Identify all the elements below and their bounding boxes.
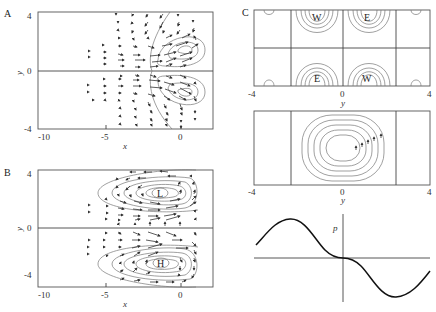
panel-b-xtick-0: 0 [178, 290, 183, 300]
panel-c-top-label-e2: E [314, 73, 320, 84]
panel-c-top-xtick-neg4: -4 [248, 89, 256, 99]
panel-a-ytick-0: 0 [27, 66, 32, 76]
panel-b-label: B [4, 167, 11, 178]
panel-b-ytick-4: 4 [27, 169, 32, 179]
panel-c: C [242, 7, 432, 302]
panel-a-xlabel: x [122, 141, 127, 151]
panel-c-middle-xtick-4: 4 [427, 187, 432, 197]
panel-a-frame [38, 12, 213, 129]
panel-c-middle-contours [302, 115, 384, 181]
panel-c-top-label-w2: W [362, 73, 372, 84]
panel-a-xtick-neg10: -10 [38, 132, 50, 142]
panel-a-contours [150, 12, 205, 129]
panel-c-middle-xtick-neg4: -4 [248, 187, 256, 197]
panel-c-top: W E E W -4 0 4 y [248, 10, 432, 108]
figure-canvas: A 4 0 -4 y -10 -5 0 x [0, 0, 436, 312]
panel-b-high-label: H [157, 258, 164, 269]
panel-b-xtick-neg10: -10 [38, 290, 50, 300]
panel-c-bottom: p [254, 214, 430, 302]
panel-b-contours [98, 170, 198, 288]
panel-c-middle-xlabel: y [340, 195, 345, 205]
panel-a-label: A [4, 8, 12, 19]
panel-c-middle-frame [254, 111, 430, 185]
panel-c-top-xtick-4: 4 [427, 89, 432, 99]
panel-b-ylabel: y [14, 227, 24, 232]
panel-b-xlabel: x [122, 299, 127, 309]
panel-c-label: C [242, 7, 249, 18]
panel-a-ylabel: y [14, 71, 24, 76]
panel-c-top-label-w1: W [312, 12, 322, 23]
panel-a-xtick-neg5: -5 [101, 132, 109, 142]
panel-b-ytick-neg4: -4 [24, 270, 32, 280]
panel-c-middle: -4 0 4 y [248, 111, 432, 205]
panel-a-ytick-4: 4 [27, 11, 32, 21]
panel-c-top-xlabel: y [340, 98, 345, 108]
panel-b: B 4 0 -4 y -10 -5 0 x L H [4, 167, 213, 309]
panel-a-ytick-neg4: -4 [24, 124, 32, 134]
panel-b-frame [38, 170, 213, 287]
panel-c-top-label-e1: E [364, 12, 370, 23]
panel-b-low-label: L [157, 188, 163, 199]
panel-b-xtick-neg5: -5 [101, 290, 109, 300]
panel-a: A 4 0 -4 y -10 -5 0 x [4, 8, 213, 151]
panel-b-ytick-0: 0 [27, 223, 32, 233]
panel-a-xtick-0: 0 [178, 132, 183, 142]
panel-c-bottom-ylabel: p [332, 223, 338, 233]
